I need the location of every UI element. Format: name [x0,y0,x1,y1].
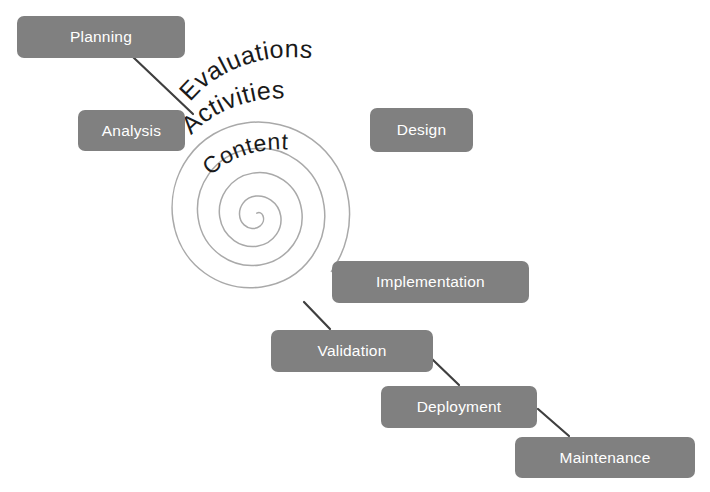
node-deployment[interactable]: Deployment [381,386,537,428]
node-analysis[interactable]: Analysis [78,110,185,151]
node-analysis-label: Analysis [102,123,161,139]
node-maintenance[interactable]: Maintenance [515,437,695,478]
node-planning-label: Planning [70,29,132,45]
connector-implementation-to-validation [304,302,330,329]
node-implementation[interactable]: Implementation [332,261,529,303]
node-deployment-label: Deployment [417,399,502,415]
node-design[interactable]: Design [370,108,473,152]
node-validation-label: Validation [318,343,387,359]
spiral-diagram-graphic: Evaluations Activities Content [0,0,710,492]
node-validation[interactable]: Validation [271,330,433,372]
node-maintenance-label: Maintenance [560,450,651,466]
diagram-canvas: Evaluations Activities Content Planning … [0,0,710,492]
node-planning[interactable]: Planning [17,16,185,58]
node-design-label: Design [397,122,446,138]
connector-deployment-to-maintenance [538,409,569,436]
node-implementation-label: Implementation [376,274,485,290]
connector-validation-to-deployment [432,359,459,385]
